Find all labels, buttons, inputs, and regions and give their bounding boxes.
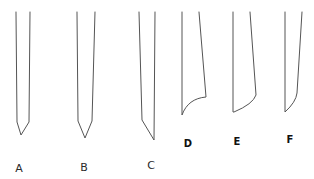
blade-diagram <box>0 0 314 179</box>
blade-shape-b <box>77 12 95 138</box>
blade-shape-f <box>285 12 302 112</box>
blade-shape-a <box>16 12 30 135</box>
label-f: F <box>287 135 294 145</box>
label-b: B <box>80 162 88 173</box>
blade-shape-d <box>182 12 206 115</box>
blade-shape-e <box>233 12 256 112</box>
label-d: D <box>184 139 192 149</box>
label-a: A <box>15 163 23 174</box>
blade-shape-c <box>139 12 155 140</box>
label-c: C <box>147 160 155 171</box>
label-e: E <box>234 137 241 147</box>
